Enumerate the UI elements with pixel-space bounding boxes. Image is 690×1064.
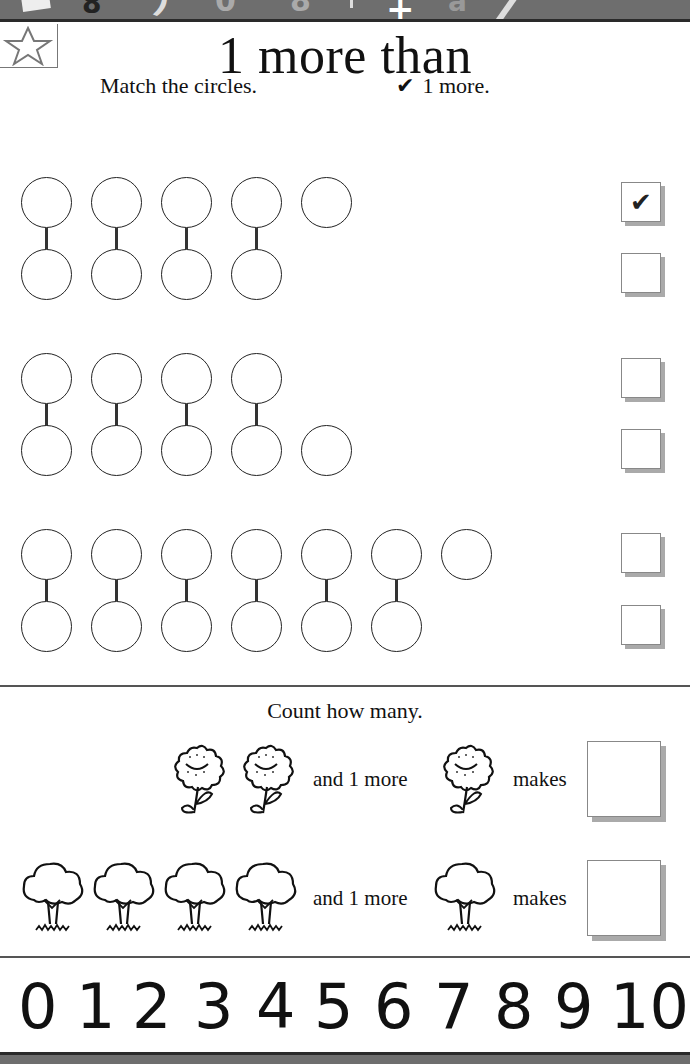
circle [301,529,352,580]
circle [21,529,72,580]
match-line [45,404,48,426]
decorative-number-icon: a [448,0,467,16]
bottom-decorative-band [0,1052,690,1064]
circle [301,601,352,652]
and-one-more-label: and 1 more [313,767,407,792]
number-line: 0 1 2 3 4 5 6 7 8 9 10 [0,968,690,1046]
match-line [185,404,188,426]
number-2: 2 [132,968,171,1046]
circle [161,601,212,652]
circle [371,529,422,580]
circle [161,177,212,228]
number-1: 1 [76,968,115,1046]
decorative-number-icon: 0 [215,0,236,16]
circle [161,353,212,404]
circle [231,177,282,228]
circle [21,601,72,652]
circle [301,177,352,228]
circle [441,529,492,580]
match-line [45,228,48,249]
count-instruction: Count how many. [0,698,690,724]
match-line [255,580,258,601]
number-6: 6 [374,968,413,1046]
answer-box-trees[interactable] [587,860,661,936]
flower-icon [237,742,295,820]
circle [231,353,282,404]
circle [21,177,72,228]
tree-icon [233,860,299,936]
match-line [185,228,188,249]
more-checkbox-set2-bottom[interactable] [621,429,661,469]
more-checkbox-set1-top[interactable]: ✔ [621,182,661,222]
more-checkbox-set3-bottom[interactable] [621,605,661,645]
circle [91,425,142,476]
tree-icon [432,860,498,936]
and-one-more-label: and 1 more [313,886,407,911]
circle [91,177,142,228]
decorative-number-icon [21,0,51,12]
match-line [115,228,118,249]
match-line [255,404,258,426]
circle [91,601,142,652]
circle [231,529,282,580]
number-4: 4 [256,968,295,1046]
circle [91,249,142,300]
number-8: 8 [494,968,533,1046]
circle [231,601,282,652]
circle [91,529,142,580]
number-line-divider [0,956,690,958]
circle [301,425,352,476]
makes-label: makes [513,886,567,911]
circle [21,425,72,476]
decorative-number-icon: + [386,0,415,22]
instruction-tick: ✔1 more. [396,73,490,99]
instruction-match: Match the circles. [100,73,257,99]
more-checkbox-set2-top[interactable] [621,358,661,398]
makes-label: makes [513,767,567,792]
match-line [115,404,118,426]
tree-icon [162,860,228,936]
match-line [325,580,328,601]
match-line [255,228,258,249]
circle [231,249,282,300]
match-line [395,580,398,601]
circle [161,425,212,476]
circle [91,353,142,404]
circle [231,425,282,476]
circle [371,601,422,652]
more-checkbox-set3-top[interactable] [621,533,661,573]
number-9: 9 [554,968,593,1046]
match-line [185,580,188,601]
answer-box-flowers[interactable] [587,741,661,817]
number-5: 5 [314,968,353,1046]
top-decorative-band: 8 ) 0 8 + a [0,0,690,22]
check-mark-icon: ✔ [396,73,414,98]
more-checkbox-set1-bottom[interactable] [621,253,661,293]
number-3: 3 [194,968,233,1046]
circle [21,353,72,404]
match-line [115,580,118,601]
flower-icon [168,742,226,820]
decorative-number-icon [496,0,520,22]
section-divider [0,685,690,687]
flower-icon [437,742,495,820]
decorative-number-icon: ) [150,0,173,19]
decorative-number-icon [350,0,353,8]
decorative-number-icon: 8 [290,0,311,16]
tree-icon [91,860,157,936]
tree-icon [20,860,86,936]
circle [161,529,212,580]
number-0: 0 [18,968,57,1046]
match-line [45,580,48,601]
number-7: 7 [434,968,473,1046]
number-10: 10 [610,968,689,1046]
instruction-tick-label: 1 more. [422,73,489,98]
circle [161,249,212,300]
circle [21,249,72,300]
decorative-number-icon: 8 [82,0,101,18]
